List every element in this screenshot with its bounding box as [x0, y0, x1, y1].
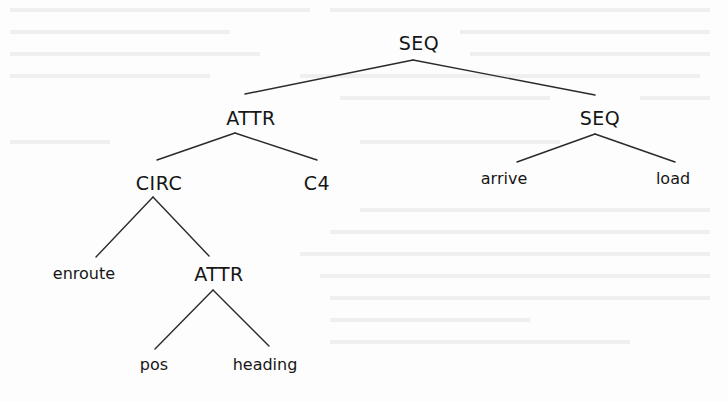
tree-edge-n0-n1 [245, 60, 413, 94]
tree-node-enroute: enroute [53, 266, 115, 282]
tree-edge-n8-n10 [213, 290, 269, 346]
tree-node-load: load [656, 171, 690, 187]
tree-edge-n1-n3 [157, 133, 235, 160]
tree-edge-n0-n2 [413, 60, 595, 95]
tree-node-attr: ATTR [226, 109, 276, 128]
tree-node-c4: C4 [304, 174, 330, 193]
tree-node-heading: heading [233, 357, 298, 373]
tree-edges [0, 0, 728, 402]
tree-node-seq: SEQ [399, 34, 440, 53]
tree-edge-n2-n5 [517, 134, 595, 162]
tree-edge-n1-n4 [235, 133, 317, 160]
tree-edge-n3-n7 [96, 197, 153, 257]
tree-diagram: SEQATTRSEQCIRCC4arriveloadenrouteATTRpos… [0, 0, 728, 402]
tree-edge-n2-n6 [595, 134, 675, 162]
tree-edge-n3-n8 [153, 197, 209, 256]
tree-edge-n8-n9 [155, 290, 213, 349]
tree-node-arrive: arrive [481, 171, 527, 187]
tree-node-circ: CIRC [136, 174, 182, 193]
tree-node-attr: ATTR [194, 265, 244, 284]
tree-node-seq: SEQ [580, 109, 621, 128]
tree-node-pos: pos [140, 357, 168, 373]
